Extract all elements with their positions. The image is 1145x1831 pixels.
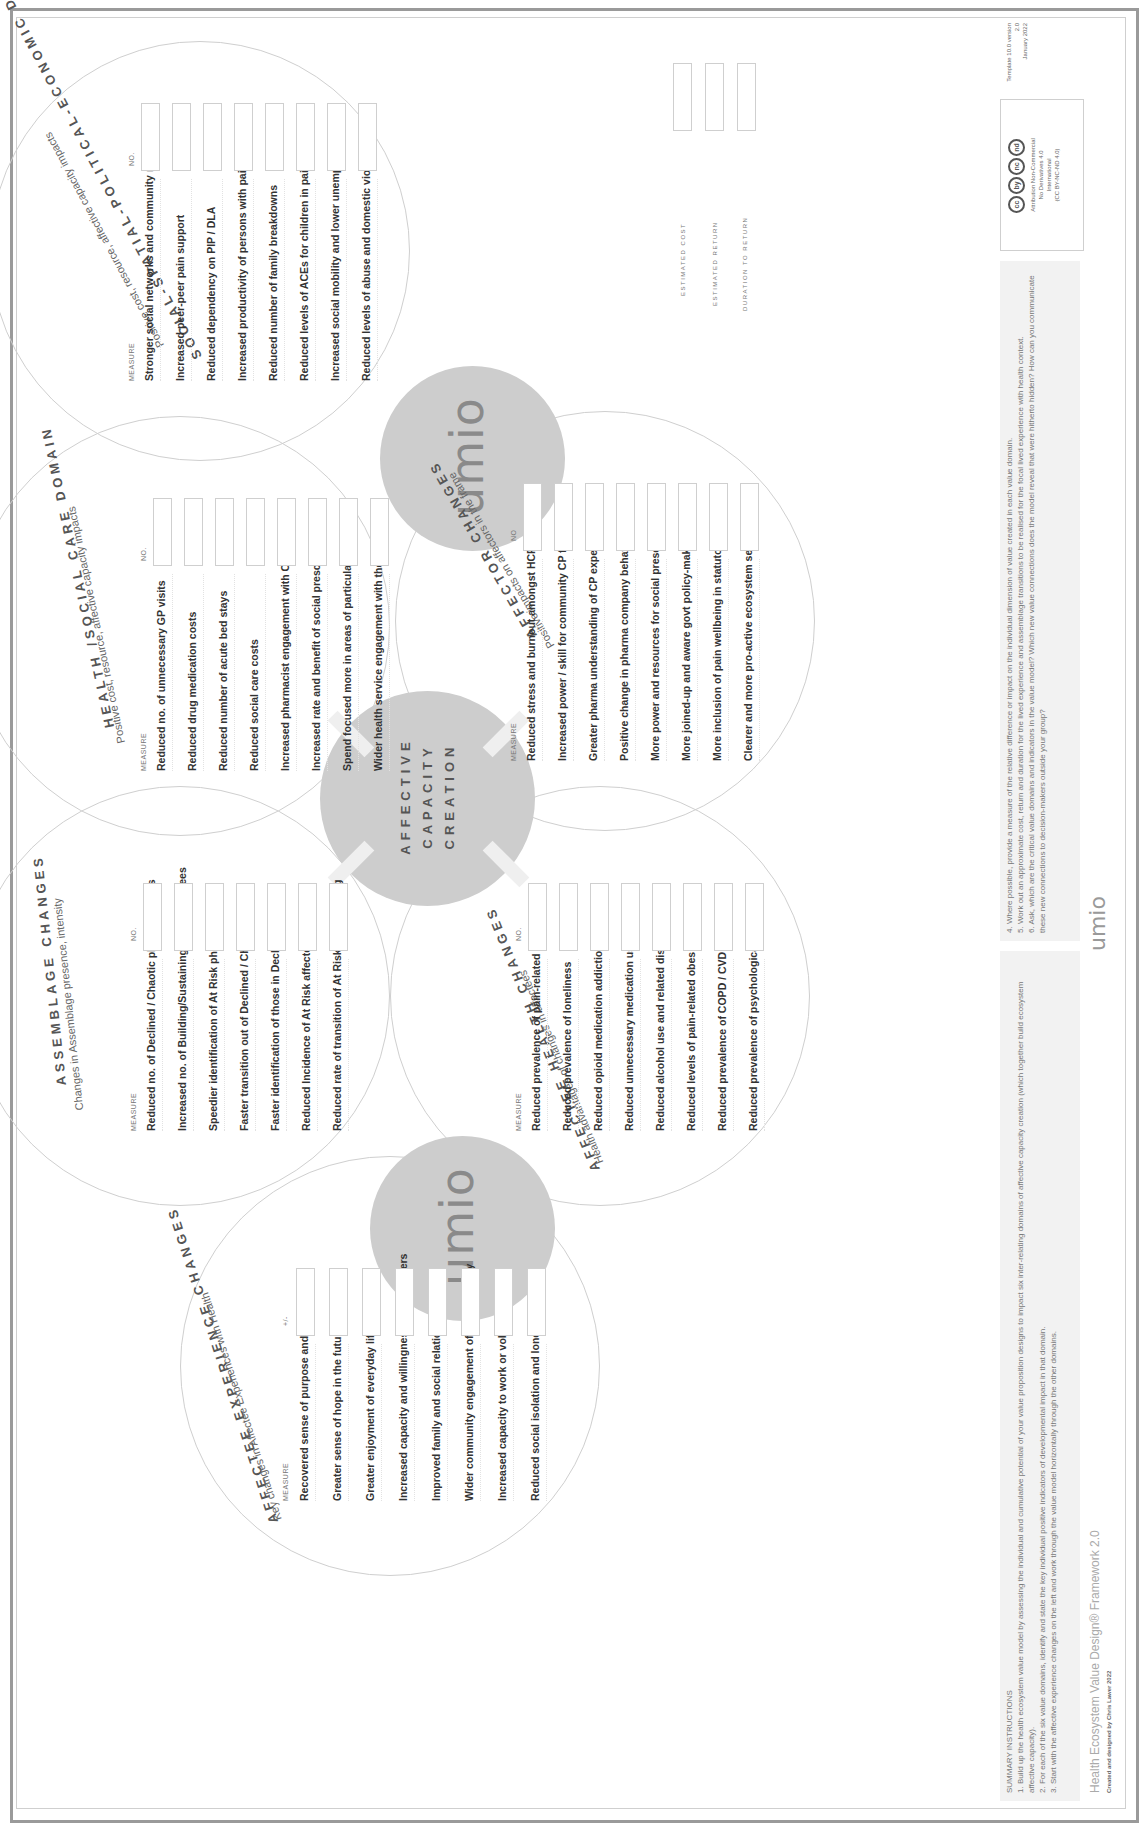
measure-item: Reduced drug medication costs [186, 612, 198, 771]
value-header: NO [510, 530, 517, 542]
value-input-box[interactable] [647, 483, 666, 551]
value-input-box[interactable] [174, 883, 193, 951]
measure-item: Reduced number of family breakdowns [267, 185, 279, 381]
row-divider [172, 574, 173, 771]
instruction-text: Work out an approximate cost, return and… [1016, 336, 1025, 924]
row-divider [222, 179, 223, 381]
instruction-number: 5. [1016, 926, 1025, 933]
row-divider [697, 559, 698, 761]
value-input-box[interactable] [740, 483, 759, 551]
value-input-box[interactable] [184, 498, 203, 566]
value-input-box[interactable] [203, 103, 222, 171]
measure-item: Increased rate and benefit of social pre… [310, 535, 322, 771]
row-divider [447, 1344, 448, 1501]
estimated-return-label: ESTIMATED RETURN [712, 221, 718, 306]
value-input-box[interactable] [234, 103, 253, 171]
row-divider [160, 179, 161, 381]
value-input-box[interactable] [215, 498, 234, 566]
value-header: NO. [128, 152, 135, 166]
value-input-box[interactable] [296, 1268, 315, 1336]
value-input-box[interactable] [265, 103, 284, 171]
estimated-return-input[interactable] [705, 63, 724, 131]
instructions-title: SUMMARY INSTRUCTIONS [1004, 953, 1015, 1793]
value-input-box[interactable] [172, 103, 191, 171]
value-input-box[interactable] [621, 883, 640, 951]
value-input-box[interactable] [141, 103, 160, 171]
cc-icon: cc [1008, 196, 1025, 213]
measure-item: Reduced social care costs [248, 639, 260, 771]
value-input-box[interactable] [428, 1268, 447, 1336]
cc-nc-icon: nc [1008, 158, 1025, 175]
value-input-box[interactable] [267, 883, 286, 951]
value-input-box[interactable] [339, 498, 358, 566]
value-input-box[interactable] [616, 483, 635, 551]
value-input-box[interactable] [362, 1268, 381, 1336]
license-line: No Derivatives 4.0 [1037, 100, 1045, 250]
row-divider [759, 559, 760, 761]
value-input-box[interactable] [236, 883, 255, 951]
value-input-box[interactable] [205, 883, 224, 951]
value-input-box[interactable] [298, 883, 317, 951]
instruction-number: 3. [1049, 1786, 1058, 1793]
measure-item: Increased peer-peer pain support [174, 215, 186, 381]
value-input-box[interactable] [683, 883, 702, 951]
measure-header: MEASURE [130, 1093, 137, 1131]
value-input-box[interactable] [153, 498, 172, 566]
value-input-box[interactable] [246, 498, 265, 566]
value-input-box[interactable] [329, 883, 348, 951]
row-divider [547, 959, 548, 1131]
value-input-box[interactable] [745, 883, 764, 951]
value-input-box[interactable] [528, 883, 547, 951]
row-divider [317, 959, 318, 1131]
instruction-number: 6. [1027, 926, 1036, 933]
value-input-box[interactable] [494, 1268, 513, 1336]
instruction-item: 2. For each of the six value domains, id… [1037, 953, 1048, 1793]
value-input-box[interactable] [329, 1268, 348, 1336]
row-divider [265, 574, 266, 771]
value-input-box[interactable] [461, 1268, 480, 1336]
measure-item: Reduced levels of abuse and domestic vio… [360, 143, 372, 381]
license-line: International [1045, 100, 1053, 250]
value-input-box[interactable] [327, 103, 346, 171]
row-divider [162, 959, 163, 1131]
value-input-box[interactable] [527, 1268, 546, 1336]
measure-item: More joined-up and aware govt policy-mak… [680, 533, 692, 761]
framework-title: Health Ecosystem Value Design® Framework… [1088, 1530, 1102, 1793]
estimated-cost-label: ESTIMATED COST [680, 223, 686, 296]
measure-item: Improved family and social relations [430, 1320, 442, 1501]
value-input-box[interactable] [143, 883, 162, 951]
value-input-box[interactable] [395, 1268, 414, 1336]
row-divider [666, 559, 667, 761]
row-divider [286, 959, 287, 1131]
value-input-box[interactable] [652, 883, 671, 951]
row-divider [702, 959, 703, 1131]
value-input-box[interactable] [714, 883, 733, 951]
value-input-box[interactable] [585, 483, 604, 551]
measure-item: Reduced levels of pain-related obesity [685, 940, 697, 1131]
row-divider [546, 1344, 547, 1501]
instruction-number: 4. [1005, 926, 1014, 933]
value-input-box[interactable] [296, 103, 315, 171]
value-input-box[interactable] [709, 483, 728, 551]
value-input-box[interactable] [554, 483, 573, 551]
value-input-box[interactable] [523, 483, 542, 551]
value-header: +/- [282, 1316, 289, 1326]
row-divider [296, 574, 297, 771]
duration-to-return-input[interactable] [737, 63, 756, 131]
instruction-item: 1. Build up the health ecosystem value m… [1015, 953, 1037, 1793]
value-input-box[interactable] [678, 483, 697, 551]
instruction-item: 6. Ask, which are the critical value dom… [1026, 268, 1048, 933]
value-input-box[interactable] [277, 498, 296, 566]
value-input-box[interactable] [559, 883, 578, 951]
measure-item: Reduced unnecessary medication use [623, 940, 635, 1131]
value-input-box[interactable] [590, 883, 609, 951]
row-divider [640, 959, 641, 1131]
value-input-box[interactable] [370, 498, 389, 566]
value-input-box[interactable] [308, 498, 327, 566]
value-input-box[interactable] [358, 103, 377, 171]
row-divider [346, 179, 347, 381]
cc-by-icon: by [1008, 177, 1025, 194]
estimated-cost-input[interactable] [673, 63, 692, 131]
row-divider [253, 179, 254, 381]
measure-item: Reduced opioid medication addiction [592, 944, 604, 1131]
